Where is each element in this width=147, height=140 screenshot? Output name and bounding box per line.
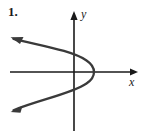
parabola-upper-branch bbox=[14, 39, 95, 72]
parabola-upper-arrow-icon bbox=[11, 37, 24, 44]
parabola-lower-branch bbox=[14, 72, 95, 110]
figure-container: 1. y x bbox=[0, 0, 147, 140]
y-axis-label: y bbox=[81, 8, 86, 20]
parabola-graph bbox=[0, 0, 147, 140]
y-axis-arrow-icon bbox=[70, 11, 77, 20]
x-axis-label: x bbox=[129, 76, 134, 88]
parabola-lower-arrow-icon bbox=[11, 106, 23, 113]
